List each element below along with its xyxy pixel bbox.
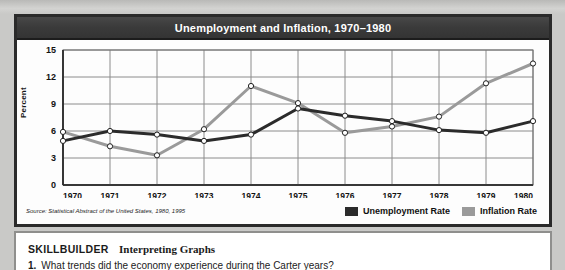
skillbuilder-panel: SKILLBUILDER Interpreting Graphs 1. What… xyxy=(14,231,552,270)
source-note: Source: Statistical Abstract of the Unit… xyxy=(26,208,185,214)
legend-item-unemployment: Unemployment Rate xyxy=(345,206,450,216)
y-axis-title: Percent xyxy=(19,87,28,118)
svg-text:6: 6 xyxy=(51,126,56,136)
line-chart-svg: 0369121519701971197219731974197519761977… xyxy=(17,40,549,224)
skillbuilder-label: SKILLBUILDER xyxy=(28,243,109,255)
svg-text:15: 15 xyxy=(46,45,56,55)
skillbuilder-topic: Interpreting Graphs xyxy=(119,243,215,255)
chart-panel: Unemployment and Inflation, 1970–1980 Pe… xyxy=(14,14,552,227)
page-top-strip xyxy=(0,0,565,14)
svg-text:12: 12 xyxy=(46,72,56,82)
legend-label-inflation: Inflation Rate xyxy=(480,206,537,216)
svg-text:9: 9 xyxy=(51,99,56,109)
svg-text:0: 0 xyxy=(51,180,56,190)
skillbuilder-question-1: 1. What trends did the economy experienc… xyxy=(28,260,550,270)
plot-area: Percent 03691215197019711972197319741975… xyxy=(17,40,549,224)
legend-swatch-unemployment xyxy=(345,207,358,216)
legend-label-unemployment: Unemployment Rate xyxy=(363,206,450,216)
page-root: Unemployment and Inflation, 1970–1980 Pe… xyxy=(0,0,565,270)
chart-title: Unemployment and Inflation, 1970–1980 xyxy=(175,22,391,34)
chart-footer: Source: Statistical Abstract of the Unit… xyxy=(17,198,549,224)
question-number: 1. xyxy=(28,260,36,270)
svg-text:3: 3 xyxy=(51,153,56,163)
question-text: What trends did the economy experience d… xyxy=(41,260,333,270)
chart-title-bar: Unemployment and Inflation, 1970–1980 xyxy=(17,17,549,40)
legend-swatch-inflation xyxy=(462,207,475,216)
skillbuilder-heading: SKILLBUILDER Interpreting Graphs xyxy=(28,239,550,257)
chart-legend: Unemployment Rate Inflation Rate xyxy=(345,206,541,216)
legend-item-inflation: Inflation Rate xyxy=(462,206,537,216)
